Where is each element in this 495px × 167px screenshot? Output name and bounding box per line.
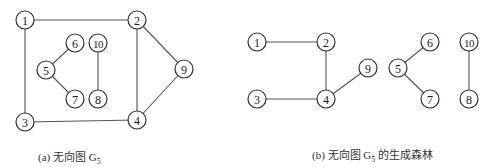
svg-text:3: 3 — [254, 93, 260, 107]
node-7: 7 — [66, 90, 84, 108]
svg-text:5: 5 — [43, 64, 49, 78]
caption-a-prefix: (a) 无向图 G — [38, 151, 97, 163]
svg-text:2: 2 — [134, 14, 140, 28]
node-10: 10 — [460, 33, 478, 51]
graph-b: 12349567108 — [248, 33, 478, 108]
svg-text:4: 4 — [323, 93, 329, 107]
node-5: 5 — [389, 59, 407, 77]
svg-text:7: 7 — [72, 93, 78, 107]
node-1: 1 — [248, 33, 266, 51]
node-9: 9 — [175, 60, 193, 78]
node-4: 4 — [317, 90, 335, 108]
caption-b-suffix: 的生成森林 — [375, 149, 433, 161]
node-2: 2 — [128, 11, 146, 29]
svg-text:8: 8 — [95, 93, 101, 107]
svg-text:10: 10 — [93, 38, 104, 50]
node-8: 8 — [460, 90, 478, 108]
caption-a-sub: 5 — [97, 157, 101, 166]
svg-text:2: 2 — [323, 36, 329, 50]
caption-b-prefix: (b) 无向图 G — [312, 149, 371, 161]
svg-text:8: 8 — [466, 93, 472, 107]
node-10: 10 — [89, 34, 107, 52]
graph-canvas: 1234567891012349567108 — [0, 0, 495, 167]
node-5: 5 — [37, 61, 55, 79]
node-6: 6 — [421, 33, 439, 51]
svg-text:6: 6 — [72, 37, 78, 51]
svg-text:7: 7 — [427, 93, 433, 107]
graph-a: 12345678910 — [16, 11, 193, 131]
node-4: 4 — [128, 111, 146, 129]
svg-text:9: 9 — [181, 63, 187, 77]
node-3: 3 — [248, 90, 266, 108]
edge-2-9 — [137, 20, 184, 69]
caption-a: (a) 无向图 G5 — [38, 148, 101, 166]
svg-text:10: 10 — [464, 37, 475, 49]
svg-text:5: 5 — [395, 62, 401, 76]
node-3: 3 — [16, 113, 34, 131]
node-9: 9 — [359, 59, 377, 77]
svg-text:1: 1 — [254, 36, 260, 50]
node-7: 7 — [421, 90, 439, 108]
node-2: 2 — [317, 33, 335, 51]
svg-text:4: 4 — [134, 114, 140, 128]
svg-text:1: 1 — [22, 14, 28, 28]
edge-4-9 — [137, 69, 184, 120]
caption-b: (b) 无向图 G5 的生成森林 — [312, 146, 433, 164]
edge-3-4 — [25, 120, 137, 122]
node-1: 1 — [16, 11, 34, 29]
svg-text:9: 9 — [365, 62, 371, 76]
svg-text:3: 3 — [22, 116, 28, 130]
node-6: 6 — [66, 34, 84, 52]
svg-text:6: 6 — [427, 36, 433, 50]
node-8: 8 — [89, 90, 107, 108]
